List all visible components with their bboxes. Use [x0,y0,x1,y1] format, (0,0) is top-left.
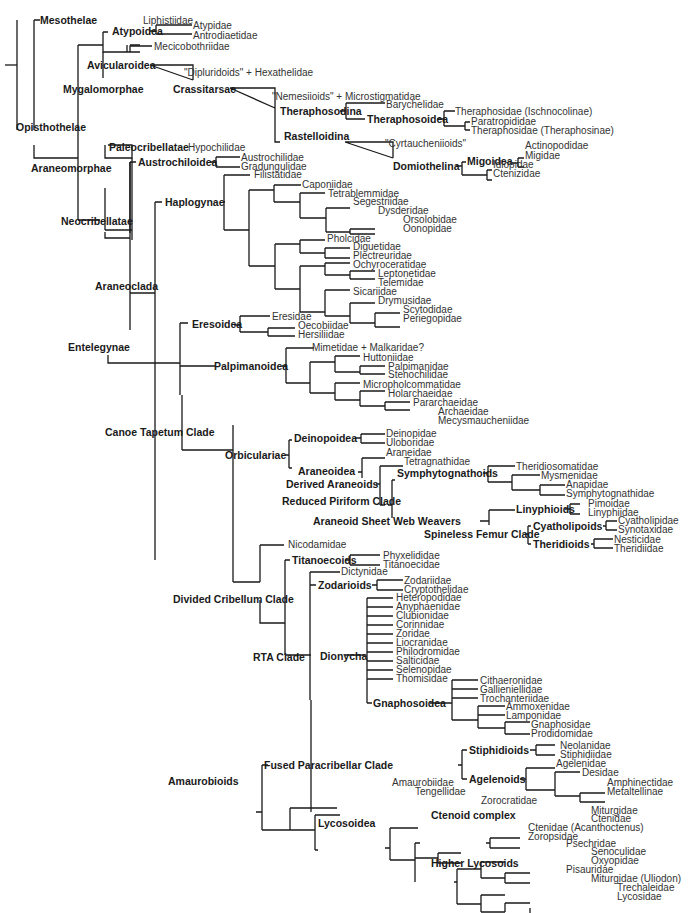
clade-linyphioids: Linyphioids [516,504,575,515]
clade-reduced-piriform: Reduced Piriform Clade [282,496,401,507]
taxon-antrodiaetidae: Antrodiaetidae [193,30,258,41]
clade-orbiculariae: Orbiculariae [225,450,286,461]
clade-titanoecoids: Titanoecoids [292,555,357,566]
taxon-thomisidae: Thomisidae [396,673,448,684]
taxon-dictynidae: Dictynidae [341,566,388,577]
clade-rta: RTA Clade [253,652,305,663]
clade-derived-araneoids: Derived Araneoids [286,479,378,490]
clade-agelenoids: Agelenoids [469,774,526,785]
clade-symphytognathoids: Symphytognathoids [397,468,498,479]
taxon-hersiliidae: Hersiliidae [298,329,345,340]
clade-stiphidioids: Stiphidioids [469,745,529,756]
taxon-barychelidae: Barychelidae [386,99,444,110]
clade-eresoidea: Eresoidea [192,319,242,330]
clade-canoe-tapetum: Canoe Tapetum Clade [105,427,215,438]
clade-rastelloidina: Rastelloidina [284,131,349,142]
taxon-hypochilidae: Hypochilidae [188,142,245,153]
taxon-dipluridoids: "Dipluridoids" + Hexathelidae [184,67,313,78]
taxon-liphistiidae: Liphistiidae [143,15,193,26]
clade-ctenoid-complex-label: Ctenoid complex [431,810,516,821]
clade-theraphosodina: Theraphosodina [280,106,362,117]
clade-dionycha: Dionycha [320,651,367,662]
taxon-periegopidae: Periegopidae [403,313,462,324]
clade-higher-lycosoids: Higher Lycosoids [431,858,519,869]
taxon-metaltellinae: Metaltellinae [607,786,663,797]
clade-neocribellatae: Neocribellatae [61,216,133,227]
clade-gnaphosoidea: Gnaphosoidea [373,698,446,709]
clade-araneoclada: Araneoclada [95,281,158,292]
clade-domiothelina: Domiothelina [393,161,460,172]
taxon-zorocratidae: Zorocratidae [481,795,537,806]
clade-crassitarsae: Crassitarsae [173,84,236,95]
taxon-mecicobothriidae: Mecicobothriidae [154,41,230,52]
clade-theraphosoidea: Theraphosoidea [367,114,448,125]
clade-mesothelae: Mesothelae [40,15,97,26]
taxon-lycosidae: Lycosidae [617,891,662,902]
clade-fused-paracribellar: Fused Paracribellar Clade [264,760,393,771]
clade-araneomorphae: Araneomorphae [31,163,112,174]
clade-entelegynae: Entelegynae [68,342,130,353]
taxon-mecysmaucheniidae: Mecysmaucheniidae [438,415,529,426]
clade-avicularoidea: Avicularoidea [87,60,155,71]
clade-paleocribellatae: Paleocribellatae [109,142,189,153]
clade-cyatholipoids: Cyatholipoids [533,521,602,532]
taxon-tengellidae: Tengellidae [415,786,466,797]
clade-amaurobioids-label: Amaurobioids [168,776,239,787]
taxon-ctenizidae: Ctenizidae [493,168,540,179]
clade-araneoidea: Araneoidea [298,466,355,477]
clade-sheet-web-weavers: Araneoid Sheet Web Weavers [313,516,461,527]
taxon-nicodamidae: Nicodamidae [288,539,346,550]
taxon-filistatidae: Filistatidae [254,169,302,180]
clade-palpimanoidea: Palpimanoidea [214,361,288,372]
taxon-prodidomidae: Prodidomidae [531,728,593,739]
clade-spineless-femur: Spineless Femur Clade [424,529,540,540]
clade-austrochiloidea: Austrochiloidea [138,157,217,168]
taxon-theraphosidae-theraphosinae: Theraphosidae (Theraphosinae) [471,125,614,136]
taxon-theridiidae: Theridiidae [614,543,663,554]
clade-lycosoidea-main: Lycosoidea [318,818,375,829]
taxon-oonopidae: Oonopidae [403,223,452,234]
clade-deinopoidea: Deinopoidea [294,433,357,444]
clade-opisthothelae: Opisthothelae [16,122,86,133]
clade-theridioids: Theridioids [533,539,590,550]
clade-zodarioids: Zodarioids [318,580,372,591]
taxon-titanoecidae: Titanoecidae [383,559,440,570]
clade-atypoidea: Atypoidea [112,26,163,37]
clade-divided-cribellum: Divided Cribellum Clade [173,594,294,605]
taxon-cyrtaucheniioids: "Cyrtaucheniioids" [385,138,466,149]
taxon-tetragnathidae: Tetragnathidae [404,456,470,467]
clade-haplogynae: Haplogynae [165,197,225,208]
clade-mygalomorphae: Mygalomorphae [63,84,144,95]
cladogram: Mesothelae Opisthothelae Mygalomorphae A… [0,0,689,913]
